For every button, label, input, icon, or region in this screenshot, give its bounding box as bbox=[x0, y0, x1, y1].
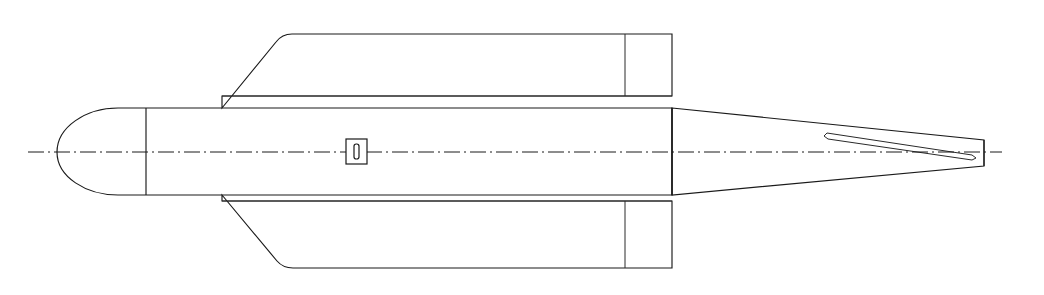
technical-drawing-canvas bbox=[0, 0, 1044, 295]
access-port-slot bbox=[354, 144, 359, 159]
upper-fin-outline bbox=[222, 34, 672, 108]
lower-fin-outline bbox=[222, 195, 672, 268]
missile-side-elevation-drawing bbox=[0, 0, 1044, 295]
access-port-detail bbox=[346, 139, 367, 164]
upper-fin bbox=[222, 34, 672, 108]
lower-fin bbox=[222, 195, 672, 268]
